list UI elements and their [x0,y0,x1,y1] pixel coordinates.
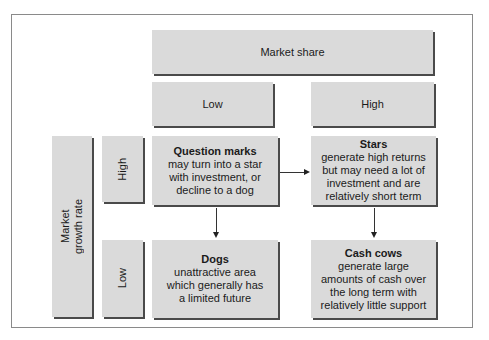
arrow-head-down-icon [371,232,377,238]
arrow-question-marks-to-stars [280,172,305,173]
question-marks-desc-line: decline to a dog [176,184,254,197]
cash-cows-title: Cash cows [345,247,402,260]
market-growth-rate-label: Market growth rate [59,199,85,254]
arrow-head-right-icon [304,169,310,175]
quadrant-cash-cows: Cash cows generate large amounts of cash… [311,240,436,318]
market-share-header: Market share [152,30,433,74]
market-growth-rate-line2: growth rate [72,199,84,254]
dogs-desc-line: a limited future [179,292,251,305]
arrow-head-down-icon [213,232,219,238]
quadrant-dogs: Dogs unattractive area which generally h… [152,240,278,318]
market-share-high-label: High [361,98,384,111]
stars-desc-line: but may need a lot of [322,164,425,177]
growth-high-header: High [102,136,143,202]
question-marks-title: Question marks [173,145,256,158]
dogs-desc-line: which generally has [167,279,264,292]
stars-desc-line: generate high returns [321,151,426,164]
question-marks-desc-line: with investment, or [169,171,261,184]
quadrant-stars: Stars generate high returns but may need… [311,136,436,205]
arrow-question-marks-to-dogs [216,208,217,233]
dogs-title: Dogs [201,253,229,266]
market-growth-rate-line1: Market [59,210,71,244]
market-share-low-header: Low [152,82,273,126]
cash-cows-desc-line: relatively little support [321,299,427,312]
growth-low-label: Low [116,268,129,288]
cash-cows-desc-line: amounts of cash over [321,273,426,286]
market-growth-rate-header: Market growth rate [52,136,92,317]
market-share-low-label: Low [202,98,222,111]
cash-cows-desc-line: the long term with [330,286,417,299]
stars-desc-line: investment and are [327,177,421,190]
stars-title: Stars [360,138,388,151]
question-marks-desc-line: may turn into a star [168,158,262,171]
market-share-high-header: High [311,82,434,126]
dogs-desc-line: unattractive area [174,266,256,279]
quadrant-question-marks: Question marks may turn into a star with… [152,136,278,205]
growth-low-header: Low [102,240,143,317]
stars-desc-line: relatively short term [326,190,422,203]
cash-cows-desc-line: generate large [338,260,409,273]
market-share-label: Market share [260,46,324,59]
growth-high-label: High [116,158,129,181]
arrow-stars-to-cash-cows [374,208,375,233]
